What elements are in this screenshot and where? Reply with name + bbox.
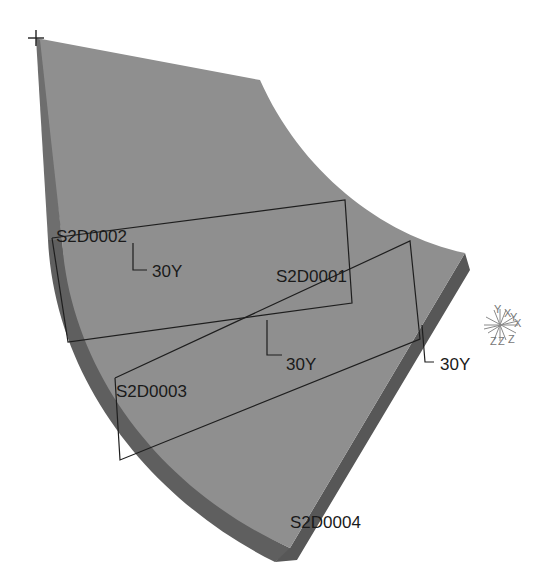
triad-label: Y: [494, 303, 502, 315]
triad-label: X: [514, 317, 522, 329]
cad-viewport[interactable]: S2D0002 30Y S2D0001 30Y S2D0003 30Y S2D0…: [0, 0, 559, 581]
orientation-label-s2d0002: 30Y: [152, 262, 182, 281]
triad-label: Z: [498, 335, 505, 347]
orientation-label-s2d0003: 30Y: [440, 355, 470, 374]
coordinate-triad-icon[interactable]: Y X Y X Z Z Z: [484, 303, 522, 347]
ply-label-s2d0004[interactable]: S2D0004: [290, 513, 361, 532]
part-top-face[interactable]: [36, 38, 465, 548]
ply-label-s2d0001[interactable]: S2D0001: [276, 267, 347, 286]
triad-label: Z: [490, 335, 497, 347]
ply-label-s2d0002[interactable]: S2D0002: [56, 227, 127, 246]
triad-label: Z: [508, 333, 515, 345]
orientation-label-s2d0001: 30Y: [286, 355, 316, 374]
ply-label-s2d0003[interactable]: S2D0003: [116, 382, 187, 401]
